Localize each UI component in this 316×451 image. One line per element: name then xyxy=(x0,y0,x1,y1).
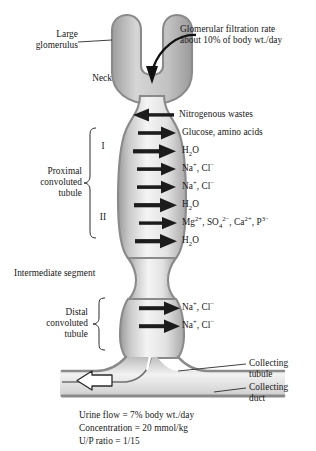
label-glomerular-filtration-line2: about 10% of body wt./day xyxy=(180,35,316,46)
transport-label: Na+, Cl− xyxy=(182,302,316,313)
brace-proximal xyxy=(84,128,96,238)
transport-label: Na+, Cl− xyxy=(182,163,316,174)
proximal-tubule-shape xyxy=(118,96,186,258)
label-collecting-duct: Collecting duct xyxy=(249,382,315,404)
transport-label: H2O xyxy=(182,145,316,156)
label-proximal-convoluted-tubule: Proximal convoluted tubule xyxy=(6,166,82,200)
transport-label: H2O xyxy=(182,199,316,210)
summary-up-ratio: U/P ratio = 1/15 xyxy=(79,436,279,447)
label-segment-ii: II xyxy=(96,212,110,223)
summary-urine-flow: Urine flow = 7% body wt./day xyxy=(79,410,279,421)
label-intermediate-segment: Intermediate segment xyxy=(14,268,144,279)
label-segment-i: I xyxy=(96,141,110,152)
transport-label: Na+, Cl− xyxy=(182,181,316,192)
label-distal-convoluted-tubule: Distal convoluted tubule xyxy=(14,307,88,341)
summary-concentration: Concentration = 20 mmol/kg xyxy=(79,423,279,434)
transport-label: Na+, Cl− xyxy=(182,320,316,331)
transport-label: Mg2+, SO42−, Ca2+, P3− xyxy=(182,217,316,228)
label-large-glomerulus: Large glomerulus xyxy=(8,29,78,51)
label-glomerular-filtration-line1: Glomerular filtration rate xyxy=(180,24,316,35)
transport-label: Nitrogenous wastes xyxy=(179,109,313,120)
label-neck: Neck xyxy=(60,73,112,84)
transport-label: Glucose, amino acids xyxy=(182,127,316,138)
label-collecting-tubule: Collecting tubule xyxy=(249,358,315,380)
brace-distal xyxy=(93,298,105,350)
transport-label: H2O xyxy=(182,235,316,246)
